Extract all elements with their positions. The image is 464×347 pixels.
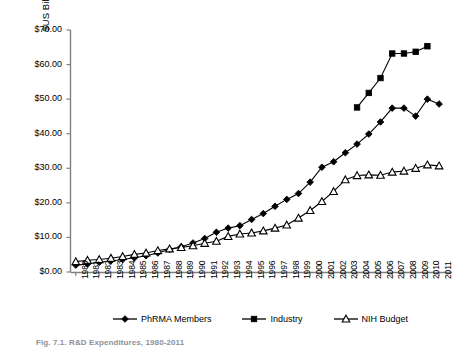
- filled-diamond-icon: [213, 229, 220, 236]
- y-axis-tick-label: $10.00: [16, 231, 62, 241]
- x-axis-tick-label: 1997: [279, 261, 289, 279]
- legend-label: Industry: [270, 314, 302, 324]
- legend-item[interactable]: PhRMA Members: [112, 313, 212, 325]
- x-axis-tick-label: 1983: [115, 261, 125, 279]
- filled-square-icon: [366, 90, 371, 95]
- filled-square-icon: [252, 316, 257, 321]
- filled-diamond-icon: [283, 196, 290, 203]
- open-triangle-icon: [213, 237, 221, 244]
- y-axis-tick-label: $20.00: [16, 197, 62, 207]
- series-line: [76, 99, 439, 265]
- x-axis-tick-label: 1982: [103, 261, 113, 279]
- x-axis-tick-label: 1986: [150, 261, 160, 279]
- filled-diamond-icon: [237, 222, 244, 229]
- x-axis-tick-label: 1981: [91, 261, 101, 279]
- chart-figure: $US Billions $0.00$10.00$20.00$30.00$40.…: [0, 0, 464, 347]
- y-axis-tick-label: $70.00: [16, 24, 62, 34]
- filled-diamond-icon: [412, 113, 419, 120]
- chart-plot-area: [0, 0, 464, 347]
- y-axis-tick-label: $40.00: [16, 128, 62, 138]
- chart-legend: PhRMA MembersIndustryNIH Budget: [70, 311, 450, 327]
- filled-diamond-icon: [225, 225, 232, 232]
- x-axis-tick-label: 2002: [338, 261, 348, 279]
- x-axis-tick-label: 2001: [326, 261, 336, 279]
- x-axis-tick-label: 1990: [197, 261, 207, 279]
- y-axis-tick-label: $60.00: [16, 59, 62, 69]
- legend-marker: [333, 313, 359, 325]
- series-lines: [76, 46, 439, 265]
- filled-square-icon: [401, 51, 406, 56]
- open-triangle-icon: [295, 214, 303, 221]
- legend-marker: [241, 313, 267, 325]
- x-axis-tick-label: 2007: [396, 261, 406, 279]
- legend-item[interactable]: Industry: [241, 313, 302, 325]
- x-axis-tick-label: 1994: [244, 261, 254, 279]
- legend-item[interactable]: NIH Budget: [333, 313, 409, 325]
- x-axis-tick-label: 2011: [443, 261, 453, 279]
- filled-square-icon: [413, 49, 418, 54]
- x-axis-tick-label: 1984: [127, 261, 137, 279]
- filled-diamond-icon: [401, 105, 408, 112]
- x-axis-tick-label: 1998: [291, 261, 301, 279]
- x-axis-tick-label: 2010: [431, 261, 441, 279]
- x-axis-tick-label: 2006: [385, 261, 395, 279]
- figure-caption: Fig. 7.1. R&D Expenditures, 1980-2011: [36, 338, 184, 347]
- x-axis-tick-label: 1985: [138, 261, 148, 279]
- x-axis-tick-label: 2005: [373, 261, 383, 279]
- legend-label: NIH Budget: [362, 314, 409, 324]
- x-axis-tick-label: 1996: [267, 261, 277, 279]
- x-axis-tick-label: 1995: [256, 261, 266, 279]
- filled-diamond-icon: [436, 101, 443, 108]
- filled-diamond-icon: [272, 203, 279, 210]
- series-markers: [72, 44, 443, 269]
- open-triangle-icon: [424, 161, 432, 168]
- x-axis-tick-label: 1991: [209, 261, 219, 279]
- x-axis-tick-label: 2009: [420, 261, 430, 279]
- open-triangle-icon: [306, 207, 314, 214]
- x-axis-tick-label: 1980: [80, 261, 90, 279]
- filled-square-icon: [354, 105, 359, 110]
- x-axis-tick-label: 1999: [302, 261, 312, 279]
- x-axis-tick-label: 2008: [408, 261, 418, 279]
- filled-square-icon: [390, 51, 395, 56]
- x-axis-tick-label: 2000: [314, 261, 324, 279]
- x-axis-tick-label: 1992: [220, 261, 230, 279]
- y-axis-tick-label: $50.00: [16, 93, 62, 103]
- filled-square-icon: [425, 44, 430, 49]
- open-triangle-icon: [283, 221, 291, 228]
- series-line: [76, 165, 439, 262]
- x-axis-tick-label: 1988: [174, 261, 184, 279]
- filled-square-icon: [378, 75, 383, 80]
- x-axis-tick-label: 2003: [349, 261, 359, 279]
- filled-diamond-icon: [424, 96, 431, 103]
- x-axis-tick-label: 1987: [162, 261, 172, 279]
- x-axis-tick-label: 1993: [232, 261, 242, 279]
- x-axis-tick-label: 2004: [361, 261, 371, 279]
- x-axis-tick-label: 1989: [185, 261, 195, 279]
- filled-diamond-icon: [248, 216, 255, 223]
- legend-marker: [112, 313, 138, 325]
- y-axis-tick-label: $0.00: [16, 266, 62, 276]
- y-axis-tick-label: $30.00: [16, 162, 62, 172]
- filled-diamond-icon: [260, 210, 267, 217]
- filled-diamond-icon: [122, 316, 129, 323]
- legend-label: PhRMA Members: [141, 314, 212, 324]
